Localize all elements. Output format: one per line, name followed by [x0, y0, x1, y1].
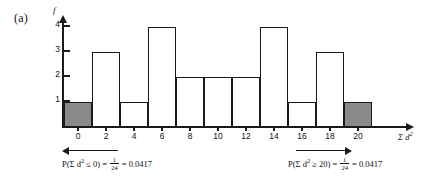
bar-18 [316, 52, 344, 127]
bar-20 [344, 102, 372, 127]
plot-area: f 1234 Σ d2 02468101214161820 [62, 18, 422, 128]
histogram-figure: (a) f 1234 Σ d2 02468101214161820 P(Σ d2… [0, 0, 444, 181]
panel-label: (a) [14, 11, 28, 26]
annotation-right-fraction-denominator: 24 [340, 164, 349, 171]
arrow-right-line [296, 150, 346, 151]
annotation-right-arrow [288, 146, 382, 155]
x-tick-label-20: 20 [353, 131, 362, 141]
annotation-left-fraction-denominator: 24 [110, 164, 119, 171]
annotation-right-fraction: 124 [340, 156, 349, 171]
annotation-right: P(Σ d2 ≥ 20) = 124 = 0.0417 [288, 146, 382, 172]
annotation-right-suffix: = 0.0417 [350, 159, 382, 169]
y-tick-label-3: 3 [55, 44, 60, 55]
y-tick-label-4: 4 [55, 19, 60, 30]
x-tick-label-16: 16 [297, 131, 306, 141]
annotation-right-prefix: P(Σ d [288, 159, 307, 169]
bar-4 [120, 102, 148, 127]
arrow-right-icon [345, 147, 352, 155]
bar-10 [204, 77, 232, 127]
bar-16 [288, 102, 316, 127]
y-axis-arrow-icon [59, 15, 67, 23]
bar-12 [232, 77, 260, 127]
bar-0 [64, 102, 92, 127]
y-tick-4: 4 [64, 25, 70, 27]
annotation-right-fraction-numerator: 1 [340, 156, 349, 164]
annotation-left-fraction-numerator: 1 [110, 156, 119, 164]
annotation-left-formula: P(Σ d2 ≤ 0) = 124 = 0.0417 [62, 155, 152, 172]
annotation-left-middle: ≤ 0) = [84, 159, 109, 169]
annotation-left-suffix: = 0.0417 [120, 159, 152, 169]
x-tick-label-14: 14 [269, 131, 278, 141]
bar-6 [148, 27, 176, 127]
x-tick-label-0: 0 [76, 131, 81, 141]
y-axis-title: f [53, 5, 56, 15]
x-tick-label-18: 18 [325, 131, 334, 141]
bar-8 [176, 77, 204, 127]
x-tick-label-12: 12 [241, 131, 250, 141]
bar-14 [260, 27, 288, 127]
x-tick-label-4: 4 [132, 131, 137, 141]
x-axis-title-text: Σ d2 [398, 132, 413, 142]
y-tick-2: 2 [64, 75, 70, 77]
annotation-left-fraction: 124 [110, 156, 119, 171]
y-tick-label-1: 1 [55, 94, 60, 105]
x-tick-label-8: 8 [188, 131, 193, 141]
x-tick-label-10: 10 [213, 131, 222, 141]
bar-2 [92, 52, 120, 127]
arrow-left-line [68, 150, 118, 151]
annotation-left: P(Σ d2 ≤ 0) = 124 = 0.0417 [62, 146, 152, 172]
annotation-left-arrow [62, 146, 152, 155]
x-tick-label-2: 2 [104, 131, 109, 141]
x-axis-title: Σ d2 [398, 130, 413, 142]
annotation-left-prefix: P(Σ d [62, 159, 81, 169]
y-tick-3: 3 [64, 50, 70, 52]
y-tick-label-2: 2 [55, 69, 60, 80]
annotation-right-formula: P(Σ d2 ≥ 20) = 124 = 0.0417 [288, 155, 382, 172]
x-tick-label-6: 6 [160, 131, 165, 141]
annotation-right-middle: ≥ 20) = [310, 159, 339, 169]
